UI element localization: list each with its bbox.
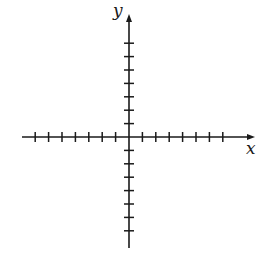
x-axis-label: x	[246, 140, 256, 157]
axis-arrowheads	[126, 14, 255, 140]
y-axis-label: y	[113, 2, 123, 19]
coordinate-plane	[0, 0, 274, 263]
y-axis-arrowhead-icon	[126, 14, 132, 22]
